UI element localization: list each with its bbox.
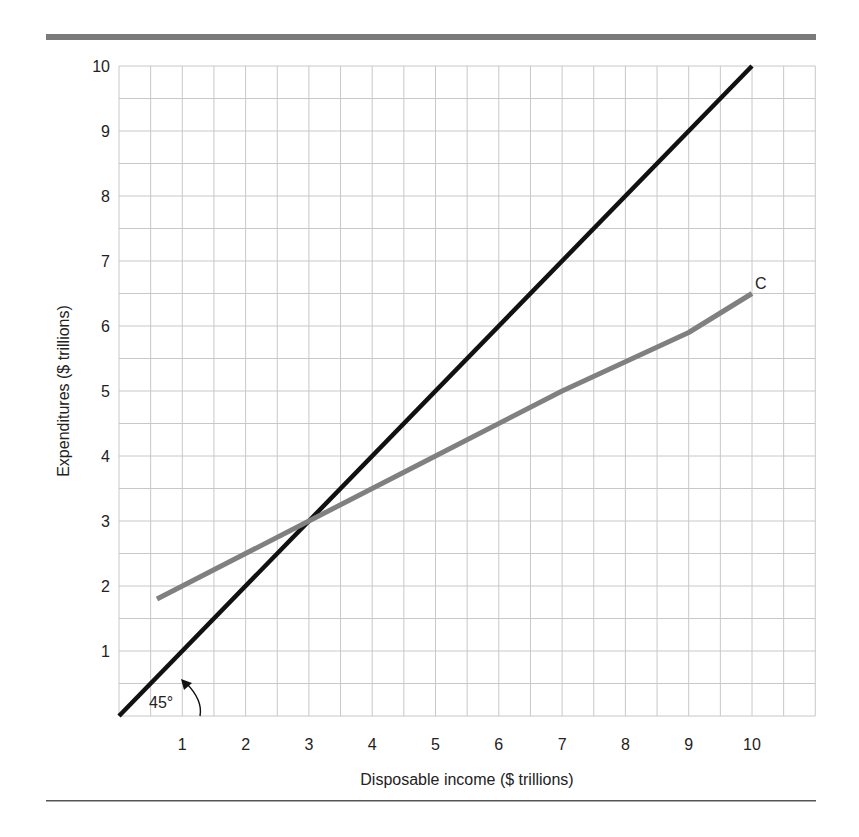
x-tick-label: 3 xyxy=(304,736,313,753)
y-axis-ticks: 12345678910 xyxy=(92,58,110,660)
x-tick-label: 9 xyxy=(684,736,693,753)
y-tick-label: 8 xyxy=(101,188,110,205)
y-tick-label: 10 xyxy=(92,58,110,75)
x-tick-label: 1 xyxy=(178,736,187,753)
y-tick-label: 9 xyxy=(101,123,110,140)
y-tick-label: 2 xyxy=(101,578,110,595)
y-tick-label: 4 xyxy=(101,448,110,465)
chart-figure: 12345678910 12345678910 45° C Disposable… xyxy=(0,0,859,837)
x-tick-label: 5 xyxy=(431,736,440,753)
x-axis-title: Disposable income ($ trillions) xyxy=(360,771,573,788)
y-tick-label: 7 xyxy=(101,253,110,270)
y-tick-label: 1 xyxy=(101,643,110,660)
y-axis-title: Expenditures ($ trillions) xyxy=(55,305,72,477)
x-axis-ticks: 12345678910 xyxy=(178,736,761,753)
x-tick-label: 7 xyxy=(558,736,567,753)
x-tick-label: 10 xyxy=(743,736,761,753)
series-c-label: C xyxy=(755,275,767,292)
grid xyxy=(119,66,815,716)
x-tick-label: 2 xyxy=(241,736,250,753)
bottom-rule xyxy=(46,800,816,802)
x-tick-label: 4 xyxy=(368,736,377,753)
y-tick-label: 5 xyxy=(101,383,110,400)
y-tick-label: 3 xyxy=(101,513,110,530)
x-tick-label: 8 xyxy=(621,736,630,753)
x-tick-label: 6 xyxy=(494,736,503,753)
y-tick-label: 6 xyxy=(101,318,110,335)
angle-label: 45° xyxy=(149,694,173,711)
top-rule xyxy=(46,34,816,40)
angle-arc xyxy=(186,683,200,716)
